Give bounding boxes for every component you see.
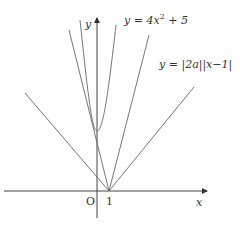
origin-label: O <box>86 195 95 208</box>
abs-line-steep-left <box>69 30 109 191</box>
tick-label-1: 1 <box>106 195 113 208</box>
function-graph: y x O 1 y = 4x2 + 5 y = |2a||x−1| <box>0 0 245 228</box>
abs-line-steep-right <box>109 35 149 191</box>
abs-line-label: y = |2a||x−1| <box>158 58 232 72</box>
x-axis-label: x <box>196 196 203 209</box>
parabola-label: y = 4x2 + 5 <box>123 12 188 27</box>
abs-line-outer-right <box>109 87 194 191</box>
y-axis-label: y <box>84 18 92 31</box>
parabola-curve <box>80 20 116 131</box>
